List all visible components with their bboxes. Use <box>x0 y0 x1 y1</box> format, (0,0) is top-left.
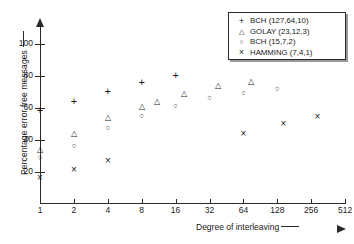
data-point-circle-marker <box>102 122 113 133</box>
data-point-triangle-marker <box>152 96 163 107</box>
x-tick <box>243 199 244 204</box>
x-tick-label: 16 <box>163 206 189 215</box>
legend-row: BCH (127,64,10) <box>229 16 345 27</box>
x-tick <box>108 199 109 204</box>
data-point-triangle-marker <box>246 76 257 87</box>
x-tick <box>176 199 177 204</box>
data-point-plus-marker <box>136 77 147 88</box>
data-point-cross-marker <box>278 118 289 129</box>
x-axis-title-text: Degree of interleaving <box>196 222 279 232</box>
data-point-triangle-marker <box>212 80 223 91</box>
data-point-cross-marker <box>68 164 79 175</box>
x-tick <box>345 199 346 204</box>
data-point-circle-marker <box>68 140 79 151</box>
data-point-plus-marker <box>68 96 79 107</box>
data-point-triangle-marker <box>179 88 190 99</box>
x-axis-arrow-icon <box>337 225 346 233</box>
x-tick-label: 2 <box>61 206 87 215</box>
y-axis-title-rule <box>23 31 24 47</box>
data-point-cross-marker <box>102 155 113 166</box>
y-tick <box>35 140 45 141</box>
legend-label: BCH (127,64,10) <box>248 16 309 27</box>
y-tick <box>35 76 45 77</box>
x-tick <box>311 199 312 204</box>
data-point-cross-marker <box>35 172 46 183</box>
legend-label: HAMMING (7,4,1) <box>248 48 312 59</box>
data-point-cross-marker <box>312 111 323 122</box>
y-axis-arrow-icon <box>36 18 44 27</box>
legend-plus-marker <box>235 16 248 28</box>
legend: BCH (127,64,10)GOLAY (23,12,3)BCH (15,7,… <box>228 12 346 60</box>
x-tick <box>74 199 75 204</box>
data-point-plus-marker <box>170 70 181 81</box>
legend-label: BCH (15,7,2) <box>248 37 296 48</box>
x-tick-label: 32 <box>197 206 223 215</box>
x-tick <box>277 199 278 204</box>
x-tick <box>210 199 211 204</box>
data-point-plus-marker <box>35 105 46 116</box>
y-axis-title: Percentage error free messages <box>19 18 29 188</box>
y-tick <box>35 44 45 45</box>
x-tick-label: 64 <box>230 206 256 215</box>
legend-triangle-marker <box>235 27 248 38</box>
legend-circle-marker <box>235 37 248 48</box>
y-axis-title-text: Percentage error free messages <box>19 50 29 175</box>
legend-row: GOLAY (23,12,3) <box>229 27 345 38</box>
x-axis-line <box>40 203 345 204</box>
data-point-circle-marker <box>272 83 283 94</box>
x-tick-label: 512 <box>332 206 354 215</box>
data-point-triangle-marker <box>102 112 113 123</box>
data-point-cross-marker <box>238 128 249 139</box>
data-point-triangle-marker <box>68 128 79 139</box>
x-axis-title-rule <box>281 226 299 227</box>
x-tick <box>142 199 143 204</box>
data-point-circle-marker <box>35 152 46 163</box>
x-tick-label: 1 <box>27 206 53 215</box>
data-point-circle-marker <box>170 100 181 111</box>
legend-row: BCH (15,7,2) <box>229 37 345 48</box>
scatter-chart: 20406080100 1248163264128256512 Percenta… <box>0 0 354 244</box>
data-point-circle-marker <box>136 110 147 121</box>
x-axis-title: Degree of interleaving <box>196 222 299 232</box>
data-point-circle-marker <box>238 87 249 98</box>
legend-label: GOLAY (23,12,3) <box>248 27 310 38</box>
data-point-circle-marker <box>204 92 215 103</box>
x-tick-label: 128 <box>264 206 290 215</box>
x-tick-label: 256 <box>298 206 324 215</box>
legend-cross-marker <box>235 47 248 59</box>
x-tick-label: 8 <box>129 206 155 215</box>
legend-row: HAMMING (7,4,1) <box>229 48 345 59</box>
data-point-plus-marker <box>102 86 113 97</box>
x-tick-label: 4 <box>95 206 121 215</box>
